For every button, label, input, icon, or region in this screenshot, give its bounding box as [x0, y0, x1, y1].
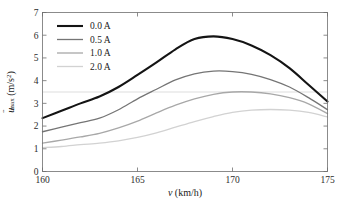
legend-label: 0.0 A: [90, 21, 111, 31]
legend-label: 1.0 A: [90, 48, 111, 58]
y-tick-label: 0: [34, 167, 39, 177]
x-axis-title: v (km/h): [168, 187, 202, 199]
series-line-2-0-a: [43, 109, 328, 147]
y-tick-label: 4: [34, 76, 39, 86]
legend-label: 0.5 A: [90, 35, 111, 45]
y-tick-label: 5: [34, 53, 39, 63]
svg-text:u¨max (m/s2): u¨max (m/s2): [1, 71, 17, 113]
series-line-0-0-a: [43, 36, 328, 118]
x-axis-tick-labels: 160165170175: [35, 175, 335, 185]
y-tick-label: 7: [34, 8, 39, 18]
y-tick-label: 2: [34, 121, 39, 131]
series-line-1-0-a: [43, 92, 328, 143]
legend: 0.0 A0.5 A1.0 A2.0 A: [57, 21, 111, 72]
legend-item-1-0-a[interactable]: 1.0 A: [57, 48, 111, 58]
figure-container: 160165170175 01234567 v (km/h) u¨max (m/…: [0, 0, 346, 204]
y-tick-label: 6: [34, 31, 39, 41]
legend-item-0-5-a[interactable]: 0.5 A: [57, 35, 111, 45]
y-tick-label: 3: [34, 99, 39, 109]
line-chart: 160165170175 01234567 v (km/h) u¨max (m/…: [0, 0, 346, 204]
legend-item-2-0-a[interactable]: 2.0 A: [57, 62, 111, 72]
legend-item-0-0-a[interactable]: 0.0 A: [57, 21, 111, 31]
x-tick-label: 170: [225, 175, 240, 185]
y-axis-tick-labels: 01234567: [34, 8, 39, 177]
y-axis-title: u¨max (m/s2): [1, 71, 17, 113]
x-tick-label: 165: [130, 175, 145, 185]
legend-label: 2.0 A: [90, 62, 111, 72]
y-tick-label: 1: [34, 144, 39, 154]
x-tick-label: 175: [320, 175, 335, 185]
